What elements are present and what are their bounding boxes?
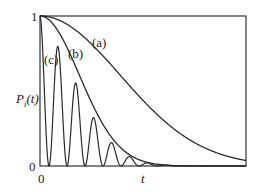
y-label-main: P	[16, 91, 24, 106]
x-axis-label: t	[141, 172, 145, 185]
y-tick-1: 1	[31, 10, 38, 23]
y-label-arg: (t)	[26, 91, 38, 106]
y-axis-label: Pi(t)	[16, 92, 39, 109]
y-tick-0: 0	[29, 160, 36, 173]
label-b: (b)	[68, 47, 83, 60]
label-c: (c)	[44, 53, 58, 66]
curve-c	[40, 16, 246, 166]
curve-a	[40, 16, 246, 161]
chart-canvas	[0, 0, 260, 192]
plot-frame	[40, 16, 246, 166]
curve-b	[40, 16, 246, 166]
x-tick-0: 0	[38, 172, 45, 185]
label-a: (a)	[92, 36, 106, 49]
